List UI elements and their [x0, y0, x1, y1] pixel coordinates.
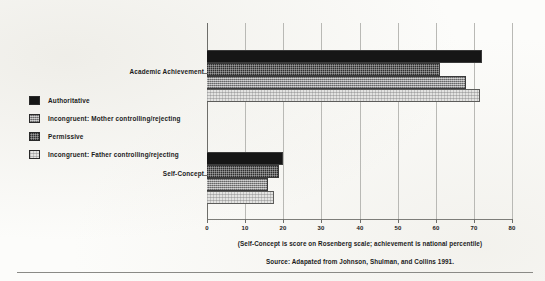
tick-label-70: 70 — [471, 225, 478, 231]
legend-item-incongruent-father: Incongruent: Father controlling/rejectin… — [29, 149, 209, 160]
tick-label-80: 80 — [509, 225, 516, 231]
tick-mark-80 — [512, 219, 513, 223]
scanned-figure-page: Authoritative Incongruent: Mother contro… — [0, 0, 545, 281]
bar-academic-permissive — [207, 63, 440, 76]
legend-label: Authoritative — [48, 97, 90, 104]
chart-legend: Authoritative Incongruent: Mother contro… — [29, 95, 209, 167]
bar-academic-authoritative — [207, 50, 482, 63]
bar-self-concept-authoritative — [207, 152, 283, 165]
legend-swatch-mid-gray-dither-icon — [29, 114, 40, 123]
tick-label-60: 60 — [433, 225, 440, 231]
tick-label-30: 30 — [318, 225, 325, 231]
page-bottom-rule — [17, 272, 533, 273]
category-label-academic-achievement: Academic Achievement — [129, 68, 204, 75]
tick-mark-0 — [207, 219, 208, 223]
bar-self-concept-incongruent-father — [207, 191, 274, 204]
legend-item-incongruent-mother: Incongruent: Mother controlling/rejectin… — [29, 113, 209, 124]
legend-swatch-solid-black-icon — [29, 96, 40, 105]
tick-label-40: 40 — [357, 225, 364, 231]
legend-label: Permissive — [48, 133, 84, 140]
tick-mark-40 — [360, 219, 361, 223]
legend-item-permissive: Permissive — [29, 131, 209, 142]
category-label-self-concept: Self-Concept — [163, 170, 204, 177]
gridline-80 — [512, 23, 513, 219]
tick-label-0: 0 — [205, 225, 208, 231]
tick-mark-50 — [398, 219, 399, 223]
bar-self-concept-incongruent-mother — [207, 178, 268, 191]
tick-mark-30 — [321, 219, 322, 223]
plot-area — [207, 23, 512, 219]
legend-label: Incongruent: Father controlling/rejectin… — [48, 151, 179, 158]
chart-footnote: (Self-Concept is score on Rosenberg scal… — [207, 240, 513, 247]
legend-label: Incongruent: Mother controlling/rejectin… — [48, 115, 181, 122]
legend-swatch-dark-dither-icon — [29, 132, 40, 141]
bar-academic-incongruent-mother — [207, 76, 466, 89]
tick-mark-20 — [283, 219, 284, 223]
tick-mark-70 — [474, 219, 475, 223]
legend-item-authoritative: Authoritative — [29, 95, 209, 106]
tick-label-20: 20 — [280, 225, 287, 231]
tick-label-50: 50 — [395, 225, 402, 231]
tick-label-10: 10 — [242, 225, 249, 231]
legend-swatch-light-dot-icon — [29, 150, 40, 159]
chart-source-note: Source: Adapated from Johnson, Shulman, … — [207, 258, 513, 265]
tick-mark-10 — [245, 219, 246, 223]
bar-academic-incongruent-father — [207, 89, 480, 102]
bar-self-concept-permissive — [207, 165, 279, 178]
tick-mark-60 — [436, 219, 437, 223]
